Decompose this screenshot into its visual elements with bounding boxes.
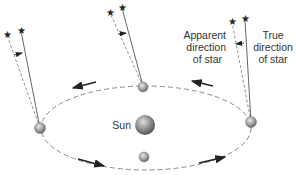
true-direction-label: True direction of star bbox=[253, 29, 293, 65]
earth-icon bbox=[138, 82, 148, 92]
left-position-sightlines bbox=[7, 31, 40, 128]
orbit-direction-arrow-icon bbox=[78, 159, 104, 166]
star-icon: ★ bbox=[228, 16, 237, 27]
top-position-sightlines bbox=[110, 8, 143, 86]
true-label-line-3: of star bbox=[258, 53, 288, 65]
orbit-direction-arrow-icon bbox=[199, 157, 225, 163]
stellar-aberration-diagram: ★ ★ ★ ★ ★ ★ Apparent direction of star T… bbox=[0, 0, 296, 175]
star-icon: ★ bbox=[17, 25, 26, 36]
star-icon: ★ bbox=[3, 29, 12, 40]
right-position-sightlines bbox=[232, 20, 251, 122]
orbit-direction-arrow-icon bbox=[192, 81, 213, 86]
apparent-label-line-2: direction bbox=[186, 41, 226, 53]
earth-icon bbox=[35, 123, 46, 134]
star-icon: ★ bbox=[106, 7, 115, 18]
apparent-direction-label: Apparent direction of star bbox=[183, 29, 226, 65]
sun-label: Sun bbox=[112, 119, 131, 131]
star-icon: ★ bbox=[118, 2, 127, 13]
true-label-line-1: True bbox=[262, 29, 283, 41]
star-icon: ★ bbox=[241, 13, 250, 24]
true-label-line-2: direction bbox=[253, 41, 293, 53]
earth-icon bbox=[246, 117, 257, 128]
apparent-label-line-1: Apparent bbox=[183, 29, 226, 41]
sun-icon bbox=[135, 115, 155, 135]
apparent-label-line-3: of star bbox=[193, 53, 223, 65]
orbit-direction-arrow-icon bbox=[73, 82, 96, 88]
earth-icon bbox=[139, 152, 149, 162]
